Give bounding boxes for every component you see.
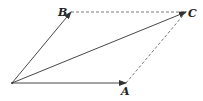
parallelogram-diagram: B C A <box>0 0 203 101</box>
vector-ob <box>12 12 71 83</box>
label-c: C <box>188 7 197 20</box>
dashed-edge-ac <box>126 12 186 83</box>
label-a: A <box>120 85 130 98</box>
origin-point <box>11 82 13 84</box>
vector-oc <box>12 12 186 83</box>
label-b: B <box>57 6 67 19</box>
